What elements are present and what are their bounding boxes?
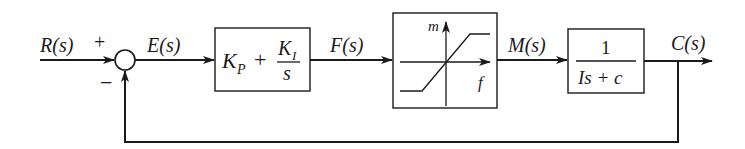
ki-denominator: s <box>283 62 291 84</box>
kp-symbol: K <box>221 48 238 73</box>
output-signal-label: C(s) <box>671 32 706 55</box>
controller-output-label: F(s) <box>329 34 364 57</box>
ki-symbol: K <box>277 37 293 59</box>
summing-junction <box>115 50 135 70</box>
ki-subscript: I <box>291 48 297 63</box>
plant-denominator: Is + c <box>577 67 623 88</box>
kp-subscript: P <box>236 62 246 77</box>
plus-sign: + <box>94 31 105 53</box>
plant-numerator: 1 <box>601 37 611 58</box>
saturation-block <box>393 13 497 108</box>
input-signal-label: R(s) <box>39 34 74 57</box>
controller-plus: + <box>254 47 266 72</box>
actuator-output-label: M(s) <box>507 34 546 57</box>
saturation-m-label: m <box>428 18 439 34</box>
minus-sign: − <box>100 70 112 95</box>
block-diagram: R(s) + − E(s) K P + K I s F(s) m f M(s) … <box>0 0 745 149</box>
error-signal-label: E(s) <box>146 34 181 57</box>
